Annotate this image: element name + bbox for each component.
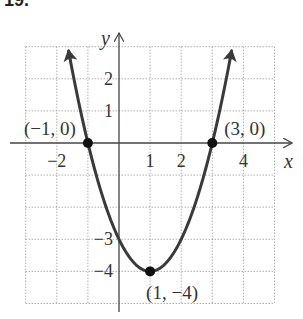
x-tick-label: 2 [177, 151, 186, 171]
parabola-graph: xy −212421−3−4 (−1, 0)(3, 0)(1, −4) [0, 0, 303, 319]
y-tick-label: −4 [94, 261, 113, 281]
point-label: (−1, 0) [24, 118, 76, 140]
y-axis-label: y [99, 27, 110, 50]
labeled-points: (−1, 0)(3, 0)(1, −4) [24, 118, 265, 304]
y-tick-label: 1 [104, 101, 113, 121]
point-label: (3, 0) [224, 118, 265, 140]
point-marker [83, 138, 93, 148]
x-axis-label: x [283, 150, 293, 172]
x-tick-label: 4 [239, 151, 248, 171]
y-tick-label: −3 [94, 229, 113, 249]
curve-arrow-icon [69, 51, 71, 59]
x-tick-label: −2 [47, 151, 66, 171]
y-tick-label: 2 [104, 69, 113, 89]
curve-arrow-icon [230, 51, 232, 59]
x-tick-label: 1 [146, 151, 155, 171]
point-marker [145, 266, 155, 276]
point-label: (1, −4) [146, 282, 198, 304]
point-marker [207, 138, 217, 148]
grid-lines [26, 47, 275, 304]
